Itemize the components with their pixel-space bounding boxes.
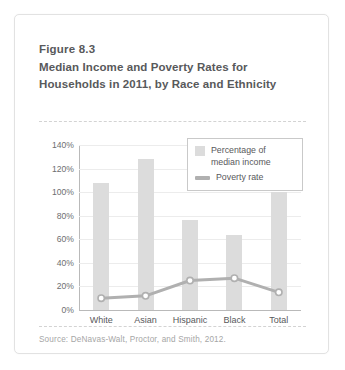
- source-note: Source: DeNavas-Walt, Proctor, and Smith…: [39, 335, 226, 344]
- figure-title: Median Income and Poverty Rates for Hous…: [39, 59, 307, 92]
- x-axis-tick-label: Hispanic: [173, 315, 208, 325]
- figure-number: Figure 8.3: [39, 41, 307, 58]
- figure-heading: Figure 8.3 Median Income and Poverty Rat…: [39, 41, 307, 92]
- figure-card: Figure 8.3 Median Income and Poverty Rat…: [14, 14, 329, 354]
- y-axis-tick-label: 120%: [52, 164, 74, 174]
- divider-bottom: [39, 326, 306, 327]
- y-axis-tick-label: 140%: [52, 140, 74, 150]
- y-axis-tick-label: 60%: [57, 234, 74, 244]
- x-axis-line: [79, 310, 301, 311]
- y-axis-tick-label: 100%: [52, 187, 74, 197]
- legend-item-poverty-rate: Poverty rate: [195, 172, 295, 184]
- x-axis-tick-label: Asian: [134, 315, 157, 325]
- data-point-marker: [231, 275, 237, 281]
- y-axis-tick-label: 0%: [62, 305, 74, 315]
- x-axis-tick-label: White: [90, 315, 113, 325]
- legend-line-swatch-icon: [195, 176, 210, 180]
- legend-label-percentage-median-income: Percentage of median income: [211, 145, 271, 168]
- legend-item-percentage-median-income: Percentage of median income: [195, 145, 295, 168]
- x-axis-tick-label: Total: [269, 315, 288, 325]
- data-point-marker: [142, 293, 148, 299]
- legend-label-line2: median income: [211, 157, 271, 167]
- y-axis-tick-label: 80%: [57, 211, 74, 221]
- chart-legend: Percentage of median income Poverty rate: [187, 138, 303, 191]
- x-axis-tick-label: Black: [223, 315, 245, 325]
- data-point-marker: [187, 277, 193, 283]
- legend-bar-swatch-icon: [195, 146, 205, 156]
- y-axis-tick-label: 20%: [57, 281, 74, 291]
- y-axis-tick-label: 40%: [57, 258, 74, 268]
- legend-label-poverty-rate: Poverty rate: [216, 172, 263, 184]
- legend-label-line1: Percentage of: [211, 145, 266, 155]
- data-point-marker: [276, 289, 282, 295]
- divider-top: [39, 121, 306, 122]
- data-point-marker: [98, 295, 104, 301]
